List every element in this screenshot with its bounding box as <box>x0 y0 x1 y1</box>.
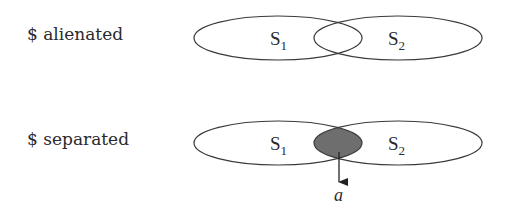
set-s1-label: S1 <box>270 28 287 53</box>
set-s2-label: S2 <box>388 28 405 53</box>
object-a-label: a <box>334 185 343 205</box>
venn-diagram: S1 S2 S1 S2 a <box>0 0 512 209</box>
venn-alienated: S1 S2 <box>194 16 482 60</box>
venn-separated: S1 S2 a <box>194 121 482 205</box>
set-s2-label: S2 <box>388 133 405 158</box>
set-s1-label: S1 <box>270 133 287 158</box>
